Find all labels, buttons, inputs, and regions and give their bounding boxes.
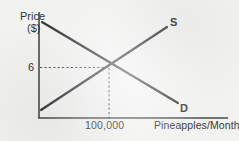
- y-axis-title-line1: Price: [20, 11, 45, 22]
- x-axis-title: Pineapples/Month: [154, 120, 239, 131]
- y-axis-title-line2: ($): [27, 23, 40, 34]
- demand-curve-label: D: [180, 103, 188, 114]
- equilibrium-quantity-tick-label: 100,000: [85, 120, 124, 131]
- supply-curve-label: S: [170, 17, 177, 28]
- equilibrium-price-tick-label: 6: [28, 62, 34, 73]
- supply-demand-chart: Price ($) 6 100,000 Pineapples/Month S D: [0, 0, 239, 141]
- supply-curve: [41, 27, 167, 110]
